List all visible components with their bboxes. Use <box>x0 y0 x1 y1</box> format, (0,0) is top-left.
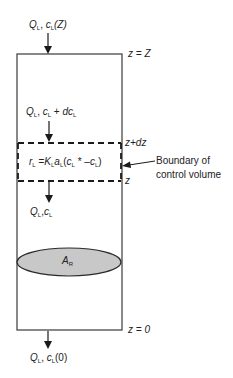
plus-sign: + <box>51 106 62 117</box>
a-subscript: R <box>69 261 73 267</box>
minus-sign: – <box>82 156 90 167</box>
column-outline <box>17 54 122 330</box>
a-symbol: A <box>62 255 69 266</box>
inlet-arrow-icon <box>44 33 52 54</box>
argument: (Z) <box>54 19 67 30</box>
upper-flow-arrow-icon <box>45 121 53 142</box>
q-symbol: Q <box>30 206 38 217</box>
cross-section-label: AR <box>62 255 73 270</box>
lower-flow-label: QL,cL <box>30 206 52 221</box>
upper-flow-label: QL, cL + dcL <box>26 106 76 121</box>
boundary-annotation-line2: control volume <box>156 169 221 181</box>
star: * <box>75 156 82 167</box>
boundary-annotation-line1: Boundary of <box>156 155 210 167</box>
inlet-label: QL, cL(Z) <box>29 19 67 34</box>
rate-equation: rL =KLaL(cL * –cL) <box>29 156 102 171</box>
boundary-pointer-arrow-icon <box>122 161 155 168</box>
bottom-level-label: z = 0 <box>128 324 150 336</box>
outlet-label: QL, cL(0) <box>30 352 67 367</box>
k-symbol: K <box>44 156 51 167</box>
top-level-label: z = Z <box>128 48 151 60</box>
q-symbol: Q <box>29 19 37 30</box>
outlet-arrow-icon <box>44 331 52 349</box>
control-volume-bottom-label: z <box>125 175 130 187</box>
close-paren: ) <box>98 156 101 167</box>
dc-subscript: L <box>73 112 76 118</box>
argument: (0) <box>55 352 67 363</box>
q-symbol: Q <box>26 106 34 117</box>
q-symbol: Q <box>30 352 38 363</box>
column-diagram <box>0 0 233 378</box>
dc-symbol: dc <box>62 106 73 117</box>
control-volume-top-label: z+dz <box>125 137 146 149</box>
c-subscript: L <box>49 212 52 218</box>
lower-flow-arrow-icon <box>45 182 53 203</box>
